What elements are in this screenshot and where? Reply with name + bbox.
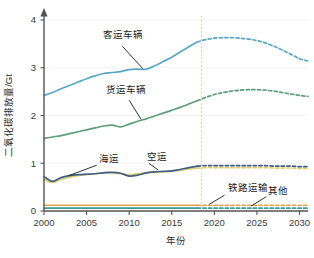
x-axis-title: 年份 — [166, 235, 186, 246]
series-label-空运: 空运 — [147, 151, 167, 162]
series-label-其他: 其他 — [268, 185, 288, 196]
series-label-海运: 海运 — [99, 153, 119, 164]
series-line-historical-海运 — [44, 166, 197, 181]
leader-line-铁路运输 — [209, 195, 224, 204]
x-tick-label-2000: 2000 — [33, 217, 54, 228]
leader-line-客运车辆 — [122, 46, 142, 68]
series-annotations: 客运车辆货运车辆海运空运铁路运输其他 — [69, 29, 288, 206]
series-line-projected-货运车辆 — [197, 90, 308, 101]
series-line-projected-客运车辆 — [197, 38, 308, 61]
series-line-projected-空运 — [197, 168, 308, 169]
leader-line-货运车辆 — [129, 100, 141, 119]
x-tick-label-2015: 2015 — [161, 217, 182, 228]
x-tick-label-2025: 2025 — [246, 217, 267, 228]
y-axis-title: 二氧化碳排放量/Gt — [3, 74, 14, 157]
chart-svg: 012342000200520102015202020252030 客运车辆货运… — [0, 0, 314, 258]
series-label-客运车辆: 客运车辆 — [103, 29, 143, 40]
co2-emissions-chart: 012342000200520102015202020252030 客运车辆货运… — [0, 0, 314, 258]
series-line-projected-海运 — [197, 166, 308, 167]
series-label-铁路运输: 铁路运输 — [228, 182, 268, 193]
series-line-historical-货运车辆 — [44, 101, 197, 139]
x-tick-label-2030: 2030 — [289, 217, 310, 228]
x-tick-label-2005: 2005 — [76, 217, 97, 228]
y-tick-label-3: 3 — [31, 62, 36, 73]
y-tick-label-2: 2 — [31, 110, 36, 121]
leader-line-空运 — [149, 163, 158, 170]
tick-labels: 012342000200520102015202020252030 — [31, 14, 310, 228]
y-tick-label-0: 0 — [31, 205, 36, 216]
gridlines — [44, 20, 308, 163]
y-tick-label-1: 1 — [31, 158, 36, 169]
x-tick-label-2010: 2010 — [119, 217, 140, 228]
y-tick-label-4: 4 — [31, 14, 36, 25]
series-lines — [44, 38, 308, 209]
y-axis-arrow — [40, 8, 47, 17]
series-label-货运车辆: 货运车辆 — [106, 84, 146, 95]
x-tick-label-2020: 2020 — [204, 217, 225, 228]
